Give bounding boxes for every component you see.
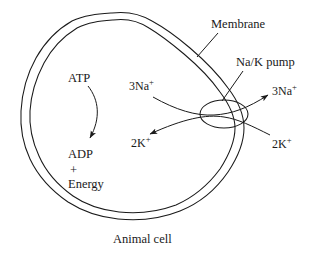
na-k-pump-label: Na/K pump [236,56,295,69]
atp-to-adp-arrow [88,86,97,138]
energy-label: Energy [68,178,104,191]
sodium-inside-charge: + [149,77,154,87]
diagram-canvas [0,0,326,260]
na-k-pump-leader-line [222,71,243,101]
sodium-outside-formula: 3Na [272,84,292,98]
animal-cell-diagram: Membrane Na/K pump ATP ADP + Energy 3Na+… [0,0,326,260]
sodium-efflux-arrow [153,95,268,115]
membrane-leader-line [197,33,218,57]
atp-label: ATP [68,72,90,85]
potassium-inside-formula: 2K [131,136,146,150]
sodium-inside-formula: 3Na [129,79,149,93]
figure-caption: Animal cell [113,233,172,246]
potassium-inside-charge: + [146,134,151,144]
potassium-outside-charge: + [287,135,292,145]
potassium-inside-label: 2K+ [131,137,151,149]
sodium-inside-label: 3Na+ [129,80,154,92]
sodium-outside-charge: + [292,82,297,92]
plus-sign-label: + [70,164,77,177]
sodium-outside-label: 3Na+ [272,85,297,97]
adp-label: ADP [68,148,93,161]
potassium-outside-label: 2K+ [272,138,292,150]
membrane-label: Membrane [211,18,265,31]
potassium-outside-formula: 2K [272,137,287,151]
